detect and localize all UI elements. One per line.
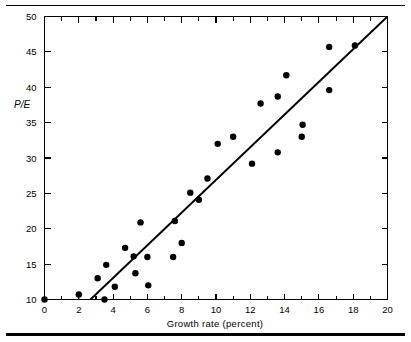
- data-point: [132, 270, 138, 276]
- x-tick-label: 18: [348, 304, 359, 315]
- x-tick-label: 12: [245, 304, 256, 315]
- y-tick-label: 30: [26, 153, 37, 164]
- data-point: [137, 219, 143, 225]
- data-point: [299, 134, 305, 140]
- scatter-plot: 02468101214161820 101520253035404550 Gro…: [0, 0, 411, 342]
- data-point: [352, 42, 358, 48]
- x-axis-title: Growth rate (percent): [167, 318, 264, 329]
- y-tick-label: 35: [26, 117, 37, 128]
- data-point: [299, 122, 305, 128]
- data-point: [130, 253, 136, 259]
- data-point: [275, 149, 281, 155]
- data-point: [249, 160, 255, 166]
- x-axis-tick-labels: 02468101214161820: [42, 304, 393, 315]
- x-tick-label: 0: [42, 304, 47, 315]
- x-tick-label: 20: [382, 304, 393, 315]
- data-point: [112, 284, 118, 290]
- y-axis-tick-labels: 101520253035404550: [26, 11, 37, 305]
- data-point: [122, 245, 128, 251]
- y-tick-label: 15: [26, 259, 37, 270]
- y-tick-label: 20: [26, 223, 37, 234]
- x-tick-label: 4: [110, 304, 115, 315]
- data-point: [41, 296, 47, 302]
- y-tick-label: 10: [26, 294, 37, 305]
- data-point: [187, 189, 193, 195]
- x-tick-label: 14: [279, 304, 290, 315]
- data-point: [101, 296, 107, 302]
- data-point: [283, 72, 289, 78]
- y-tick-label: 25: [26, 188, 37, 199]
- data-point: [215, 141, 221, 147]
- plot-frame: [45, 17, 388, 300]
- figure-root: 02468101214161820 101520253035404550 Gro…: [0, 0, 411, 342]
- data-point: [172, 218, 178, 224]
- data-point: [170, 254, 176, 260]
- x-tick-label: 16: [314, 304, 325, 315]
- data-point: [179, 240, 185, 246]
- x-tick-label: 8: [179, 304, 184, 315]
- data-point: [257, 100, 263, 106]
- data-points-layer: [41, 42, 358, 302]
- y-tick-label: 50: [26, 11, 37, 22]
- data-point: [204, 175, 210, 181]
- y-tick-label: 40: [26, 82, 37, 93]
- data-point: [326, 44, 332, 50]
- x-tick-label: 10: [211, 304, 222, 315]
- y-axis-tick-marks: [45, 52, 388, 264]
- plot-border: [45, 17, 388, 300]
- data-point: [196, 197, 202, 203]
- data-point: [144, 254, 150, 260]
- data-point: [230, 134, 236, 140]
- data-point: [326, 87, 332, 93]
- data-point: [94, 275, 100, 281]
- x-axis-tick-marks: [45, 17, 388, 300]
- data-point: [103, 262, 109, 268]
- x-tick-label: 2: [76, 304, 81, 315]
- y-tick-label: 45: [26, 46, 37, 57]
- data-point: [275, 93, 281, 99]
- y-axis-title: P/E: [14, 99, 30, 110]
- x-tick-label: 6: [145, 304, 150, 315]
- data-point: [76, 291, 82, 297]
- data-point: [145, 282, 151, 288]
